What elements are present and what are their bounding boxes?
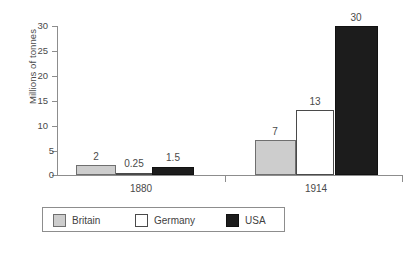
y-tick-label: 15: [18, 96, 48, 106]
bar-britain-1914: [255, 140, 296, 175]
x-tick-end: [402, 176, 403, 182]
y-tick-label: 25: [18, 46, 48, 56]
y-tick-label: 20: [18, 71, 48, 81]
bar-value-germany-1914: 13: [292, 97, 338, 107]
y-tick-mark: [52, 26, 58, 27]
y-tick-label: 30: [18, 21, 48, 31]
legend-label-germany: Germany: [154, 215, 195, 226]
legend-item-germany: Germany: [135, 213, 195, 227]
x-group-label-1880: 1880: [101, 183, 181, 194]
bar-germany-1914: [296, 110, 334, 175]
bar-value-britain-1914: 7: [252, 127, 298, 137]
legend-swatch-usa-icon: [226, 214, 239, 227]
y-tick-label: 10: [18, 121, 48, 131]
y-tick-mark: [52, 76, 58, 77]
bar-value-usa-1880: 1.5: [150, 153, 196, 163]
x-group-label-1914: 1914: [276, 183, 356, 194]
x-tick-group-divider: [225, 176, 226, 182]
bar-chart: Millions of tonnes 30 25 20 15 10 5 0 18…: [0, 0, 420, 257]
bar-germany-1880: [116, 173, 152, 175]
legend-item-usa: USA: [226, 213, 266, 227]
y-tick-mark: [52, 51, 58, 52]
legend-label-usa: USA: [245, 215, 266, 226]
legend-item-britain: Britain: [53, 213, 100, 227]
bar-value-usa-1914: 30: [333, 13, 379, 23]
bar-usa-1880: [152, 167, 194, 175]
bar-usa-1914: [335, 26, 378, 175]
y-tick-label: 5: [24, 146, 54, 156]
y-tick-mark: [52, 126, 58, 127]
y-tick-mark: [52, 101, 58, 102]
y-tick-label: 0: [24, 170, 54, 180]
legend-swatch-britain-icon: [53, 214, 66, 227]
bar-britain-1880: [76, 165, 116, 175]
legend: Britain Germany USA: [42, 207, 285, 232]
legend-swatch-germany-icon: [135, 214, 148, 227]
x-axis-line: [57, 175, 403, 176]
legend-label-britain: Britain: [72, 215, 100, 226]
